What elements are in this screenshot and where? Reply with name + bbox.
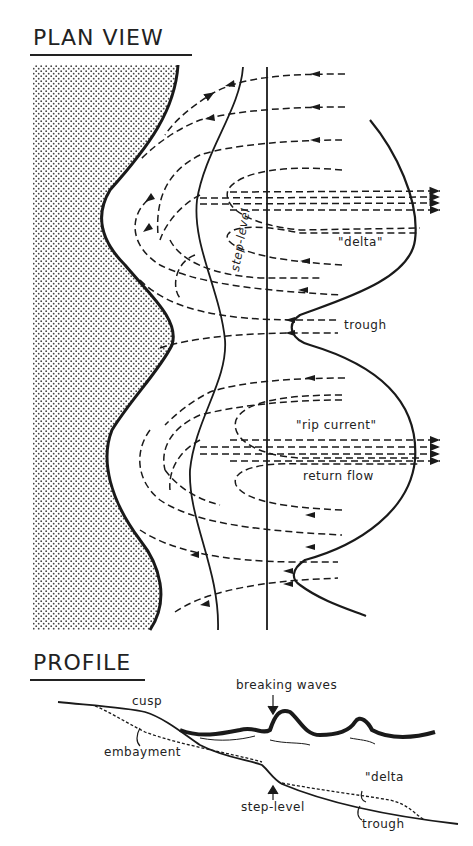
cusp-label: cusp bbox=[132, 694, 162, 708]
plan-view-title: PLAN VIEW bbox=[33, 25, 164, 50]
profile-title: PROFILE bbox=[33, 650, 131, 675]
flow-lines bbox=[135, 74, 420, 612]
rip-current-arrows-top bbox=[200, 191, 440, 210]
rip-current-label: "rip current" bbox=[296, 418, 377, 432]
return-flow-label: return flow bbox=[303, 469, 374, 483]
beach-area bbox=[33, 65, 178, 630]
breaking-waves-label: breaking waves bbox=[236, 678, 337, 692]
embayment-label: embayment bbox=[104, 745, 181, 759]
delta-profile-label: "delta bbox=[365, 770, 404, 784]
step-level-profile-label: step-level bbox=[241, 800, 305, 814]
breaking-waves bbox=[180, 711, 435, 745]
delta-label: "delta" bbox=[338, 235, 383, 249]
diagram-canvas bbox=[0, 0, 473, 846]
profile-underline bbox=[30, 679, 145, 681]
wavy-line bbox=[190, 67, 243, 630]
trough-label: trough bbox=[344, 318, 387, 332]
trough-profile-label: trough bbox=[362, 817, 405, 831]
delta-boundary bbox=[292, 120, 416, 616]
plan-view-underline bbox=[30, 54, 192, 56]
